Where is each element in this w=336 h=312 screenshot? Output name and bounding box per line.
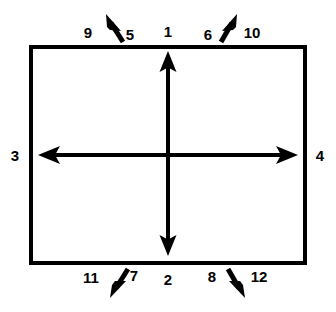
- label-1: 1: [164, 24, 172, 39]
- diag-up-left-arrowhead: [106, 14, 121, 31]
- diagram-canvas: 9 5 1 6 10 3 4 11 7 2 8 12: [0, 0, 336, 312]
- diag-down-left-arrowhead: [110, 281, 126, 298]
- diag-down-right-arrowhead: [229, 281, 245, 298]
- label-3: 3: [11, 148, 19, 163]
- direction-diagram: [0, 0, 336, 312]
- label-5: 5: [126, 27, 134, 42]
- label-9: 9: [84, 25, 92, 40]
- label-6: 6: [204, 27, 212, 42]
- label-8: 8: [208, 269, 216, 284]
- label-7: 7: [130, 268, 138, 283]
- diag-up-right-arrowhead: [222, 14, 237, 31]
- label-10: 10: [244, 25, 261, 40]
- label-11: 11: [83, 270, 99, 285]
- label-4: 4: [316, 148, 324, 163]
- label-2: 2: [164, 272, 172, 287]
- label-12: 12: [251, 269, 268, 284]
